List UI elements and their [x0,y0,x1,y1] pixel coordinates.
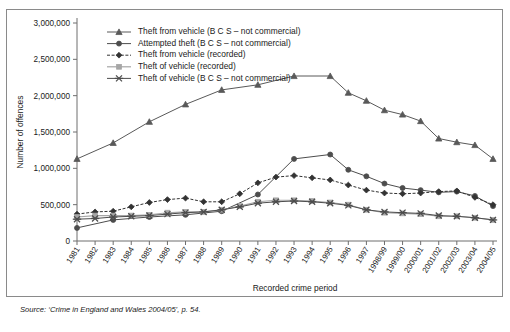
y-tick-label: 500,000 [40,201,70,210]
data-point-marker [292,156,297,161]
y-tick-label: 3,000,000 [34,19,71,28]
x-tick-label: 1984 [119,245,136,265]
x-tick-label: 1988 [191,245,208,265]
legend-label: Theft of vehicle (B C S – not commercial… [138,73,291,83]
data-point-marker [309,175,315,181]
data-point-marker [146,200,152,206]
y-tick-label: 2,000,000 [34,92,71,101]
data-point-marker [364,174,369,179]
y-tick-label: 2,500,000 [34,55,71,64]
legend-item-3: Theft of vehicle (recorded) [107,61,236,71]
x-tick-label: 1985 [137,245,154,265]
y-axis-title: Number of offences [15,96,25,169]
series-layer [73,73,497,230]
line-chart: 0500,0001,000,0001,500,0002,000,0002,500… [7,10,502,296]
series-2 [74,173,496,217]
series-line [77,200,493,220]
data-point-marker [165,197,171,203]
y-tick-label: 1,500,000 [34,128,71,137]
data-point-marker [219,199,225,205]
legend-label: Theft of vehicle (recorded) [138,61,236,71]
data-point-marker [400,191,406,197]
series-line [77,176,493,215]
data-point-marker [363,98,369,104]
series-line [77,201,493,220]
data-point-marker [74,156,80,162]
data-point-marker [117,41,122,46]
data-point-marker [116,52,122,58]
x-tick-label: 1987 [173,245,190,265]
x-tick-label: 1993 [282,245,299,265]
legend-item-2: Theft from vehicle (recorded) [107,49,246,59]
x-tick-label: 1997 [354,245,371,265]
x-tick-label: 1995 [318,245,335,265]
legend-label: Theft from vehicle (recorded) [138,49,246,59]
chart-frame: 0500,0001,000,0001,500,0002,000,0002,500… [6,9,503,297]
source-note: Source: ‘Crime in England and Wales 2004… [20,305,201,314]
y-tick-label: 1,000,000 [34,164,71,173]
data-point-marker [183,195,189,201]
series-line [77,76,493,159]
legend-item-0: Theft from vehicle (B C S – not commerci… [107,26,301,36]
legend-item-1: Attempted theft (B C S – not commercial) [107,38,291,48]
data-point-marker [345,182,351,188]
x-tick-label: 1982 [83,245,100,265]
series-line [77,155,493,228]
series-0 [74,73,496,161]
data-point-marker [75,225,80,230]
x-tick-label: 1986 [155,245,172,265]
figure-container: 0500,0001,000,0001,500,0002,000,0002,500… [0,0,510,332]
data-point-marker [255,180,261,186]
data-point-marker [182,101,188,107]
data-point-marker [382,181,387,186]
data-point-marker [117,64,122,69]
data-point-marker [128,204,134,210]
y-tick-label: 0 [65,237,70,246]
data-point-marker [237,191,243,197]
data-point-marker [363,187,369,193]
chart-legend: Theft from vehicle (B C S – not commerci… [107,26,301,82]
x-tick-label: 1994 [300,245,317,265]
series-1 [75,152,496,230]
x-tick-label: 1991 [246,245,263,265]
x-tick-label: 1981 [65,245,82,265]
x-tick-label: 1992 [264,245,281,265]
data-point-marker [110,140,116,146]
data-point-marker [328,152,333,157]
series-4 [73,198,497,223]
x-axis-title: Recorded crime period [253,283,338,293]
data-point-marker [381,107,387,113]
data-point-marker [382,190,388,196]
x-axis-ticks: 1981198219831984198519861987198819891990… [65,241,498,275]
legend-item-4: Theft of vehicle (B C S – not commercial… [107,73,291,83]
data-point-marker [201,199,207,205]
data-point-marker [400,185,405,190]
x-tick-label: 1989 [209,245,226,265]
data-point-marker [327,177,333,183]
data-point-marker [346,167,351,172]
data-point-marker [146,119,152,125]
legend-label: Theft from vehicle (B C S – not commerci… [138,26,301,36]
x-tick-label: 1990 [227,245,244,265]
x-tick-label: 1996 [336,245,353,265]
data-point-marker [291,173,297,179]
y-axis-ticks: 0500,0001,000,0001,500,0002,000,0002,500… [34,19,77,246]
x-tick-label: 1983 [101,245,118,265]
data-point-marker [255,192,260,197]
legend-label: Attempted theft (B C S – not commercial) [138,38,291,48]
